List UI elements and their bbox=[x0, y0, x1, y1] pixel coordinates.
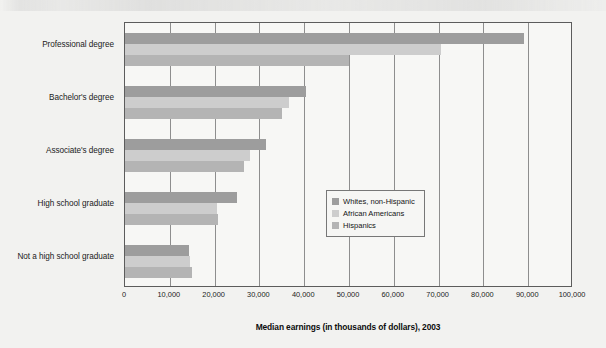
bar bbox=[125, 86, 306, 97]
x-axis-tick-labels: 010,00020,00030,00040,00050,00060,00070,… bbox=[0, 290, 606, 304]
bar bbox=[125, 161, 244, 172]
category-label: Professional degree bbox=[0, 40, 114, 49]
bar bbox=[125, 203, 217, 214]
plot-area bbox=[124, 22, 572, 287]
category-label: High school graduate bbox=[0, 199, 114, 208]
legend-swatch-icon bbox=[332, 198, 339, 205]
bar bbox=[125, 108, 282, 119]
x-axis-title: Median earnings (in thousands of dollars… bbox=[124, 322, 572, 332]
x-tick-label: 40,000 bbox=[292, 290, 315, 299]
x-tick-label: 10,000 bbox=[157, 290, 180, 299]
legend-item-label: Hispanics bbox=[343, 221, 376, 230]
bar bbox=[125, 245, 189, 256]
x-tick-label: 0 bbox=[122, 290, 126, 299]
bar bbox=[125, 256, 190, 267]
legend-item-label: Whites, non-Hispanic bbox=[343, 197, 415, 206]
x-tick-label: 90,000 bbox=[516, 290, 539, 299]
category-label: Bachelor's degree bbox=[0, 93, 114, 102]
bar bbox=[125, 214, 218, 225]
x-tick-label: 80,000 bbox=[471, 290, 494, 299]
bar bbox=[125, 192, 237, 203]
category-label: Associate's degree bbox=[0, 146, 114, 155]
category-label: Not a high school graduate bbox=[0, 252, 114, 261]
bar-group bbox=[125, 139, 571, 172]
bar bbox=[125, 55, 349, 66]
bar-group bbox=[125, 33, 571, 66]
chart-legend: Whites, non-HispanicAfrican AmericansHis… bbox=[326, 190, 425, 237]
bar bbox=[125, 150, 250, 161]
x-tick-label: 70,000 bbox=[426, 290, 449, 299]
legend-swatch-icon bbox=[332, 222, 339, 229]
page-bleed-artifact bbox=[0, 0, 606, 11]
legend-item: African Americans bbox=[332, 208, 415, 219]
legend-item-label: African Americans bbox=[343, 209, 404, 218]
bar bbox=[125, 44, 441, 55]
x-tick-label: 100,000 bbox=[559, 290, 586, 299]
bar bbox=[125, 33, 524, 44]
bar-group bbox=[125, 245, 571, 278]
x-tick-label: 30,000 bbox=[247, 290, 270, 299]
x-tick-label: 20,000 bbox=[202, 290, 225, 299]
bar-group bbox=[125, 86, 571, 119]
legend-item: Hispanics bbox=[332, 220, 415, 231]
legend-swatch-icon bbox=[332, 210, 339, 217]
bar bbox=[125, 267, 192, 278]
bar bbox=[125, 139, 266, 150]
x-tick-label: 50,000 bbox=[337, 290, 360, 299]
x-tick-label: 60,000 bbox=[381, 290, 404, 299]
bar-chart-figure: Professional degreeBachelor's degreeAsso… bbox=[0, 0, 606, 348]
legend-item: Whites, non-Hispanic bbox=[332, 196, 415, 207]
category-axis: Professional degreeBachelor's degreeAsso… bbox=[0, 22, 118, 287]
bar bbox=[125, 97, 289, 108]
